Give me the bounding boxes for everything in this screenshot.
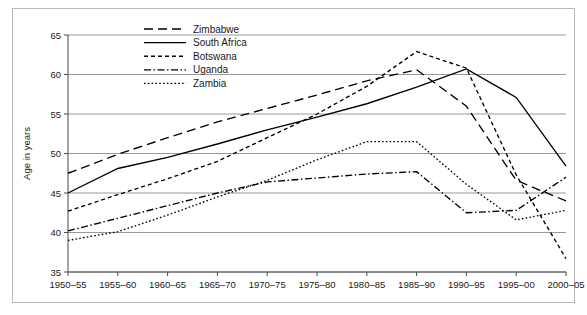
- series-line-zambia: [68, 142, 566, 241]
- x-tick-label: 1975–80: [299, 279, 336, 290]
- x-tick-label: 1980–85: [348, 279, 385, 290]
- x-tick-label: 1970–75: [249, 279, 286, 290]
- x-tick-label: 1995–00: [498, 279, 535, 290]
- legend-label-uganda: Uganda: [193, 64, 228, 75]
- x-tick-labels: 1950–551955–601960–651965–701970–751975–…: [50, 279, 585, 290]
- y-axis-title-text: Age in years: [21, 127, 32, 180]
- x-tick-label: 1965–70: [199, 279, 236, 290]
- series-lines-group: [68, 52, 566, 259]
- y-tick-label: 55: [50, 109, 61, 120]
- x-tick-label: 1955–60: [99, 279, 136, 290]
- series-line-south-africa: [68, 69, 566, 193]
- axis-group: [64, 35, 566, 276]
- chart-legend: ZimbabweSouth AfricaBotswanaUgandaZambia: [144, 24, 247, 89]
- y-tick-labels: 65605550454035: [50, 30, 61, 278]
- x-tick-label: 1960–65: [149, 279, 186, 290]
- x-tick-label: 1985–90: [398, 279, 435, 290]
- y-tick-label: 45: [50, 188, 61, 199]
- legend-label-zimbabwe: Zimbabwe: [193, 24, 240, 35]
- y-tick-label: 65: [50, 30, 61, 41]
- y-tick-label: 35: [50, 267, 61, 278]
- x-tick-label: 2000–05: [548, 279, 585, 290]
- line-chart: 65605550454035 1950–551955–601960–651965…: [0, 0, 587, 315]
- y-axis-title: Age in years: [21, 127, 32, 180]
- legend-label-south-africa: South Africa: [193, 37, 247, 48]
- legend-label-botswana: Botswana: [193, 51, 237, 62]
- y-tick-label: 40: [50, 227, 61, 238]
- gridlines-group: [68, 35, 566, 272]
- y-tick-label: 60: [50, 69, 61, 80]
- legend-label-zambia: Zambia: [193, 78, 227, 89]
- series-line-zimbabwe: [68, 70, 566, 201]
- x-tick-label: 1950–55: [50, 279, 87, 290]
- figure-container: 65605550454035 1950–551955–601960–651965…: [0, 0, 587, 315]
- x-tick-label: 1990–95: [448, 279, 485, 290]
- y-tick-label: 50: [50, 148, 61, 159]
